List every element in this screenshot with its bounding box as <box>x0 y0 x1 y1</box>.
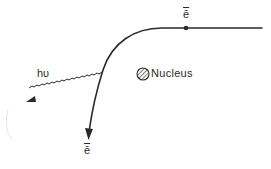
label-electron-incoming: ē <box>183 9 189 20</box>
photon-arrowhead <box>26 96 36 102</box>
label-photon: hυ <box>37 68 49 79</box>
electron-trajectory <box>89 28 262 132</box>
bremsstrahlung-diagram: ē hυ Nucleus ē <box>0 0 271 169</box>
electron-dot <box>184 26 189 31</box>
label-nucleus: Nucleus <box>151 68 193 79</box>
label-electron-outgoing: ē <box>84 145 90 156</box>
diagram-canvas <box>0 0 271 169</box>
nucleus-icon <box>137 68 149 80</box>
page-edge <box>6 110 12 140</box>
electron-arrowhead <box>85 128 93 140</box>
